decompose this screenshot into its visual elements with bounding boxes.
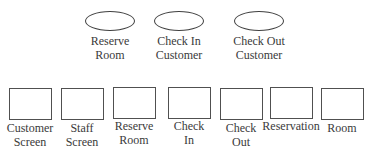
label-line: Check In <box>139 34 219 48</box>
class-reservation-box <box>270 87 313 119</box>
class-reserve-room-box <box>113 87 156 119</box>
class-check-in-box <box>168 87 211 119</box>
use-case-check-out-customer-label: Check Out Customer <box>219 34 299 62</box>
label-line: Reserve <box>70 34 150 48</box>
use-case-check-out-customer-ellipse <box>234 11 284 31</box>
label-line: Customer <box>139 48 219 62</box>
use-case-reserve-room-label: Reserve Room <box>70 34 150 62</box>
label-line: Room <box>307 121 371 135</box>
class-staff-screen-box <box>61 88 104 120</box>
use-case-check-in-customer-ellipse <box>154 11 204 31</box>
label-line: Out <box>206 135 276 149</box>
use-case-check-in-customer-label: Check In Customer <box>139 34 219 62</box>
use-case-reserve-room-ellipse <box>85 11 135 31</box>
label-line: Customer <box>219 48 299 62</box>
class-check-out-box <box>220 88 263 120</box>
label-line: Room <box>70 48 150 62</box>
class-customer-screen-box <box>9 88 52 120</box>
class-room-box <box>321 88 364 120</box>
label-line: Check Out <box>219 34 299 48</box>
class-room-label: Room <box>307 121 371 135</box>
